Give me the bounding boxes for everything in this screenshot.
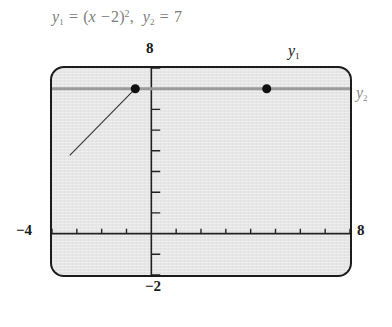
window-ymax-label: 8 [146,40,154,57]
calculator-screen [50,66,352,277]
right-intersection-dot[interactable] [262,84,271,93]
equation-y2-subscript: 2 [150,17,155,27]
equation-constant-2: 2 [111,8,119,25]
curve-label-y1: y1 [288,42,300,61]
equation-variable-x: x [89,8,96,25]
left-intersection-dot[interactable] [131,84,140,93]
curve-label-y2-subscript: 2 [363,93,368,103]
equation-y1-subscript: 1 [59,17,64,27]
equation-minus-sign: − [100,8,111,25]
window-xmin-label: −4 [16,222,32,239]
window-xmax-label: 8 [357,222,365,239]
left-intersection-leader-line [70,89,136,156]
equation-y2-value: 7 [174,8,182,25]
equation-y2-equals: = [159,8,170,25]
curve-label-y1-subscript: 1 [295,51,300,61]
screenshot-stage: y1 = (x −2)2,y2 = 7 8 −2 −4 8 y1 y2 (−0.… [0,0,392,327]
equation-comma: , [130,8,134,25]
window-ymin-label: −2 [145,278,161,295]
equation-y1-equals: = [68,8,79,25]
graph-plot-area [52,68,350,275]
curve-label-y2: y2 [356,84,368,103]
equation-header: y1 = (x −2)2,y2 = 7 [52,8,182,27]
equation-y2-name: y [143,8,150,25]
